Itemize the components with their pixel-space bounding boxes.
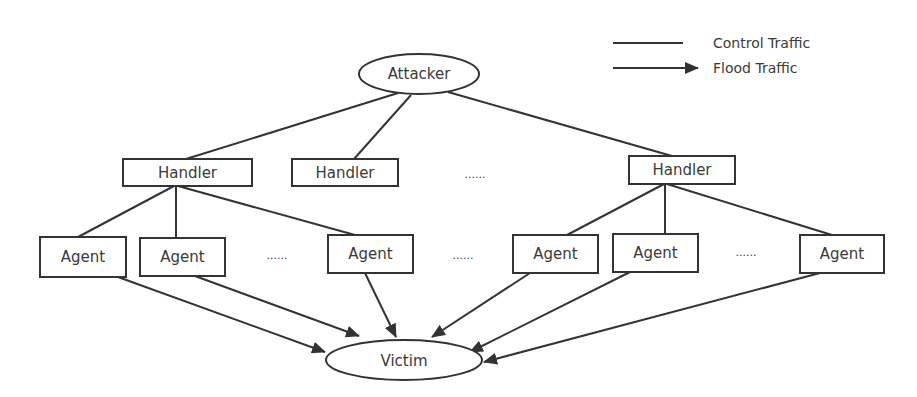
edge-attacker-handler-1 (186, 93, 398, 159)
legend-control-label: Control Traffic (713, 35, 810, 51)
flood-agent-4-victim (432, 273, 530, 337)
edge-attacker-handler-3 (448, 92, 672, 156)
edge-handler-3-agent-6 (667, 184, 832, 235)
victim-node: Victim (326, 340, 482, 380)
flood-agent-5-victim (470, 272, 630, 352)
handler-node-2: Handler (292, 159, 398, 186)
agent-label: Agent (160, 248, 205, 266)
legend-control-traffic: Control Traffic (613, 35, 810, 51)
agent-label: Agent (633, 244, 678, 262)
legend: Control Traffic Flood Traffic (613, 35, 810, 76)
flood-agent-6-victim (484, 273, 820, 362)
edge-handler-3-agent-4 (567, 184, 664, 235)
agents-ellipsis-right: ...... (736, 246, 757, 259)
attacker-label: Attacker (388, 65, 452, 83)
handler-node-3: Handler (629, 156, 735, 184)
flood-agent-2-victim (195, 276, 359, 336)
agent-label: Agent (61, 248, 106, 266)
ddos-architecture-diagram: Control Traffic Flood Traffic Attacker (0, 0, 917, 397)
handler-label: Handler (158, 164, 218, 182)
agent-label: Agent (820, 245, 865, 263)
handler-label: Handler (315, 164, 375, 182)
handlers-ellipsis: ...... (465, 168, 486, 181)
agent-label: Agent (348, 245, 393, 263)
legend-flood-label: Flood Traffic (713, 60, 797, 76)
handler-node-1: Handler (123, 159, 252, 186)
flood-agent-1-victim (118, 277, 325, 352)
agent-node-3: Agent (328, 235, 413, 273)
flood-agent-3-victim (365, 273, 396, 337)
agents-ellipsis-left: ...... (267, 249, 288, 262)
edge-handler-1-agent-3 (178, 186, 355, 235)
victim-label: Victim (380, 352, 427, 370)
agent-node-6: Agent (800, 235, 884, 273)
agent-node-2: Agent (140, 238, 225, 276)
legend-flood-traffic: Flood Traffic (613, 60, 797, 76)
agent-node-5: Agent (613, 234, 698, 272)
agents-ellipsis-middle: ...... (453, 249, 474, 262)
agent-label: Agent (533, 245, 578, 263)
edge-handler-1-agent-1 (78, 186, 174, 237)
agent-node-1: Agent (40, 237, 126, 277)
agent-node-4: Agent (513, 235, 598, 273)
handler-label: Handler (652, 161, 712, 179)
attacker-node: Attacker (359, 54, 479, 94)
